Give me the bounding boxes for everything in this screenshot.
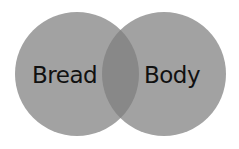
label-body: Body xyxy=(144,64,200,87)
label-bread: Bread xyxy=(32,64,97,87)
